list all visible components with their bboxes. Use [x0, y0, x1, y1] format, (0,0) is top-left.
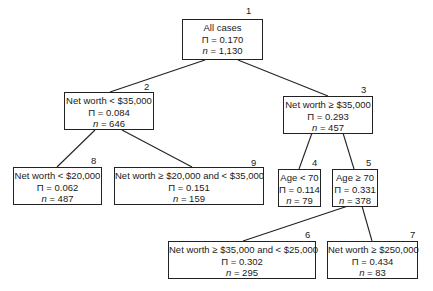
- node-3: Net worth ≥ $35,000 Π = 0.293 n = 457: [283, 96, 373, 134]
- node-condition: Net worth ≥ $35,000 and < $25,000: [169, 244, 315, 256]
- node-n: n = 646: [65, 118, 153, 130]
- node-9: Net worth ≥ $20,000 and < $35,000 Π = 0.…: [114, 167, 264, 205]
- node-condition: Net worth ≥ $35,000: [284, 99, 372, 111]
- node-number-4: 4: [312, 158, 317, 168]
- node-number-5: 5: [366, 158, 371, 168]
- node-number-2: 2: [144, 82, 149, 92]
- edge-3-5: [343, 133, 354, 169]
- node-condition: Age ≥ 70: [333, 172, 377, 184]
- node-condition: Net worth ≥ $250,000: [328, 244, 417, 256]
- node-number-3: 3: [361, 85, 366, 95]
- edge-2-8: [57, 130, 95, 167]
- node-pi: Π = 0.293: [284, 111, 372, 123]
- node-number-6: 6: [305, 230, 310, 240]
- node-pi: Π = 0.331: [333, 184, 377, 196]
- edge-1-3: [238, 60, 328, 96]
- node-n: n = 457: [284, 122, 372, 134]
- node-n: n = 79: [279, 195, 320, 207]
- node-condition: All cases: [183, 22, 262, 34]
- node-number-1: 1: [246, 6, 251, 16]
- edge-2-9: [122, 130, 192, 167]
- node-n: n = 295: [169, 267, 315, 279]
- node-pi: Π = 0.170: [183, 34, 262, 46]
- node-pi: Π = 0.434: [328, 256, 417, 268]
- node-condition: Net worth < $20,000: [14, 170, 101, 182]
- node-1: All cases Π = 0.170 n = 1,130: [182, 19, 263, 60]
- node-pi: Π = 0.084: [65, 107, 153, 119]
- edge-1-2: [110, 60, 205, 92]
- node-pi: Π = 0.114: [279, 184, 320, 196]
- node-number-7: 7: [410, 230, 415, 240]
- edge-3-4: [299, 133, 312, 169]
- node-condition: Net worth < $35,000: [65, 95, 153, 107]
- node-7: Net worth ≥ $250,000 Π = 0.434 n = 83: [327, 241, 418, 279]
- node-2: Net worth < $35,000 Π = 0.084 n = 646: [64, 92, 154, 130]
- node-4: Age < 70 Π = 0.114 n = 79: [278, 169, 321, 207]
- node-pi: Π = 0.151: [115, 182, 263, 194]
- node-condition: Net worth ≥ $20,000 and < $35,000: [115, 170, 263, 182]
- node-condition: Age < 70: [279, 172, 320, 184]
- node-n: n = 83: [328, 267, 417, 279]
- node-number-8: 8: [91, 156, 96, 166]
- node-n: n = 378: [333, 195, 377, 207]
- node-pi: Π = 0.302: [169, 256, 315, 268]
- node-n: n = 487: [14, 193, 101, 205]
- node-8: Net worth < $20,000 Π = 0.062 n = 487: [13, 167, 102, 205]
- node-6: Net worth ≥ $35,000 and < $25,000 Π = 0.…: [168, 241, 316, 279]
- node-n: n = 159: [115, 193, 263, 205]
- edge-5-7: [362, 206, 372, 241]
- node-n: n = 1,130: [183, 45, 262, 57]
- node-pi: Π = 0.062: [14, 182, 101, 194]
- edge-5-6: [243, 206, 348, 241]
- node-5: Age ≥ 70 Π = 0.331 n = 378: [332, 169, 378, 207]
